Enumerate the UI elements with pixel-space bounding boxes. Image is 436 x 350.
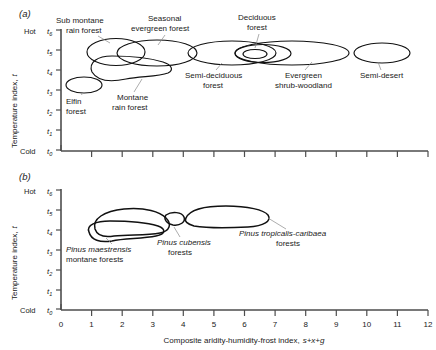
label-montane-rain-forest-line2: rain forest [112,103,148,112]
label-montane-rain-forest-line1: Montane [117,93,149,102]
panel-a-label: (a) [19,8,31,19]
svg-text:Temperature index,t: Temperature index,t [10,74,19,148]
panel-b-x-tick-labels: 0 1 2 3 4 5 6 7 8 9 10 11 12 [59,320,433,329]
panel-b-ytick-t4: t4 [47,227,52,237]
panel-a-ytick-t6: t6 [47,27,53,37]
label-sub-montane-rain-forest-line2: rain forest [66,26,102,35]
label-semi-deciduous-forest-line1: Semi-deciduous [185,71,242,80]
region-outline-pinus-maestrensis [88,221,163,242]
xtick-4: 4 [181,320,186,329]
figure-container: (a) Temperature index,t Hot Cold t6 t5 t… [0,0,436,350]
panel-b-ytick-t6: t6 [47,187,53,197]
leader-montane-rain-forest [134,79,142,92]
xtick-8: 8 [303,320,308,329]
svg-text:Temperature index,t: Temperature index,t [10,226,19,300]
leader-pinus-tropicalis-caribaea [268,218,286,229]
panel-a-ytick-t5: t5 [47,47,53,57]
panel-a-ytick-t1: t1 [47,127,52,137]
xtick-5: 5 [212,320,217,329]
label-pinus-tropicalis-line2: forests [276,239,300,248]
xtick-3: 3 [151,320,156,329]
panel-b-cold-cap: Cold [20,306,35,315]
panel-a-ytick-t2: t2 [47,107,52,117]
xtick-9: 9 [334,320,339,329]
leader-deciduous-forest [255,34,259,48]
panel-b-y-title-text: Temperature index, [10,232,19,300]
region-outline-pinus-cubensis [95,209,170,237]
panel-b-ytick-t2: t2 [47,267,52,277]
panel-a-ytick-t0: t0 [47,147,53,157]
panel-b-hot-cap: Hot [24,187,37,196]
label-pinus-tropicalis-line1: Pinus tropicalis-caribaea [239,229,327,238]
label-semi-desert: Semi-desert [360,71,404,80]
region-outline-semi-desert [354,43,410,63]
xtick-11: 11 [393,320,402,329]
panel-a-ytick-t3: t3 [47,87,53,97]
label-seasonal-evergreen-forest-line1: Seasonal [148,14,182,23]
panel-b-x-title-text: Composite aridity-humidity-frost index, [164,336,300,345]
label-evergreen-shrub-woodland-line2: shrub-woodland [275,81,332,90]
panel-b-ytick-t1: t1 [47,287,52,297]
label-deciduous-forest-line2: forest [247,23,268,32]
leader-pinus-cubensis [174,227,180,237]
panel-a-y-title-var: t [10,74,19,77]
label-deciduous-forest-line1: Deciduous [238,13,276,22]
xtick-2: 2 [120,320,125,329]
panel-b-y-title-var: t [10,226,19,229]
xtick-10: 10 [362,320,371,329]
panel-a-hot-cap: Hot [24,27,37,36]
label-sub-montane-rain-forest-line1: Sub montane [56,16,104,25]
panel-b-x-axis-title: Composite aridity-humidity-frost index,s… [164,336,325,345]
label-semi-deciduous-forest-line2: forest [203,81,224,90]
region-outline-sub-montane-rain-forest [87,39,145,66]
label-seasonal-evergreen-forest-line2: evergreen forest [131,24,190,33]
label-elfin-forest-line2: forest [66,107,87,116]
panel-a-y-axis-title: Temperature index,t [10,74,19,148]
label-elfin-forest-line1: Elfin [66,97,82,106]
panel-a-cold-cap: Cold [20,147,35,156]
xtick-1: 1 [89,320,94,329]
xtick-0: 0 [59,320,64,329]
panel-b-ytick-t5: t5 [47,207,53,217]
label-pinus-maestrensis-line1: Pinus maestrensis [66,245,131,254]
panel-b: (b) Temperature index,t Hot Cold t6 t5 t… [10,171,433,345]
panel-b-label: (b) [19,171,31,182]
xtick-7: 7 [273,320,278,329]
panel-a-ytick-t4: t4 [47,67,52,77]
figure-svg: (a) Temperature index,t Hot Cold t6 t5 t… [0,0,436,350]
panel-b-ytick-t3: t3 [47,247,53,257]
panel-b-y-axis-title: Temperature index,t [10,226,19,300]
region-outline-pinus-cubensis-lobe [165,213,184,226]
region-outline-evergreen-shrub-woodland [235,41,349,65]
xtick-12: 12 [424,320,433,329]
label-evergreen-shrub-woodland-line1: Evergreen [285,71,322,80]
leader-evergreen-shrub-woodland [305,62,312,70]
label-pinus-cubensis-line2: forests [168,248,192,257]
label-pinus-maestrensis-line2: montane forests [66,255,123,264]
panel-a-y-title-text: Temperature index, [10,80,19,148]
panel-a: (a) Temperature index,t Hot Cold t6 t5 t… [10,8,428,157]
region-outline-seasonal-evergreen-forest [117,40,197,66]
region-outline-elfin-forest [66,77,102,93]
region-outline-montane-rain-forest [91,56,171,81]
region-outline-pinus-tropicalis-caribaea [185,206,269,228]
xtick-6: 6 [242,320,247,329]
region-outline-deciduous-forest-inner [243,50,267,59]
panel-b-x-title-var: s+x+g [303,336,325,345]
label-pinus-cubensis-line1: Pinus cubensis [157,238,211,247]
panel-b-ytick-t0: t0 [47,306,53,316]
